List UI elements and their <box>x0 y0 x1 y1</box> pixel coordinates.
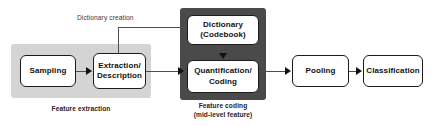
node-pooling-label: Pooling <box>305 66 335 76</box>
node-classification-label: Classification <box>366 66 419 76</box>
connector-dictionary-creation-vertical <box>118 27 119 53</box>
arrowhead-extraction-to-quantification <box>178 67 184 75</box>
caption-feature-coding: Feature coding (mid-level feature) <box>168 102 278 120</box>
caption-feature-coding-line1: Feature coding <box>168 102 278 111</box>
arrowhead-pooling-to-classification <box>356 67 362 75</box>
arrowhead-sampling-to-extraction <box>86 67 92 75</box>
diagram-canvas: Sampling Extraction/ Description Diction… <box>0 0 432 126</box>
connector-dictionary-creation-horizontal <box>118 27 187 28</box>
node-extraction-line2: Description <box>97 71 142 81</box>
node-quantification-line1: Quantification/ <box>194 66 252 76</box>
node-sampling-label: Sampling <box>30 66 67 76</box>
node-dictionary-line2: (Codebook) <box>200 30 245 40</box>
caption-feature-coding-line2: (mid-level feature) <box>168 111 278 120</box>
node-classification[interactable]: Classification <box>363 55 423 87</box>
node-quantification-line2: Coding <box>194 77 252 87</box>
connector-quantification-to-pooling <box>259 71 287 72</box>
node-extraction-description[interactable]: Extraction/ Description <box>93 53 146 89</box>
label-dictionary-creation: Dictionary creation <box>77 14 134 21</box>
arrowhead-quantification-to-pooling <box>285 67 291 75</box>
node-pooling[interactable]: Pooling <box>292 55 349 87</box>
node-extraction-line1: Extraction/ <box>97 61 142 71</box>
caption-feature-extraction: Feature extraction <box>11 105 151 114</box>
arrowhead-dictionary-to-quantification <box>219 53 227 59</box>
node-dictionary-line1: Dictionary <box>200 20 245 30</box>
node-quantification-coding[interactable]: Quantification/ Coding <box>187 60 259 93</box>
node-sampling[interactable]: Sampling <box>20 55 76 87</box>
node-dictionary-codebook[interactable]: Dictionary (Codebook) <box>187 15 259 45</box>
